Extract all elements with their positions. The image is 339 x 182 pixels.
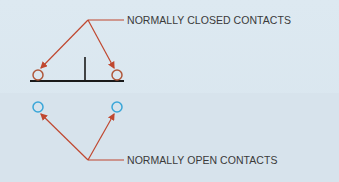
nc-contact-right-icon bbox=[112, 70, 122, 80]
nc-arrows bbox=[41, 20, 124, 68]
normally-closed-label: NORMALLY CLOSED CONTACTS bbox=[127, 15, 291, 26]
normally-open-label: NORMALLY OPEN CONTACTS bbox=[127, 155, 277, 166]
nc-contact-left-icon bbox=[33, 70, 43, 80]
nc-arrow-right-icon bbox=[88, 20, 114, 68]
background-band bbox=[0, 93, 339, 182]
nc-arrow-left-icon bbox=[41, 20, 88, 68]
contacts-diagram: NORMALLY CLOSED CONTACTS NORMALLY OPEN C… bbox=[0, 0, 339, 182]
